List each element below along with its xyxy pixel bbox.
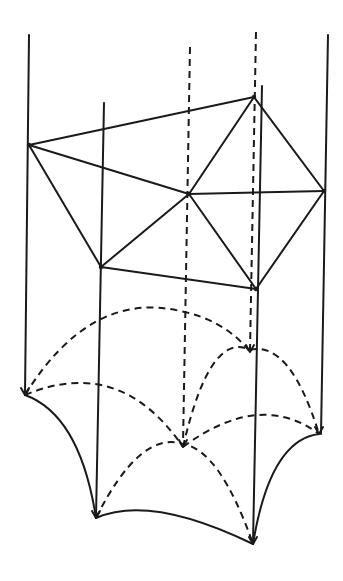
vertical-projection-lines [25, 32, 328, 544]
plan-vertex-dot [322, 189, 326, 193]
groin-rib-curve [25, 383, 183, 447]
dashed-projection-line [183, 47, 190, 445]
groin-rib-curve [96, 442, 253, 544]
plan-edge [101, 267, 256, 289]
plan-edge [29, 97, 254, 145]
vault-arches [25, 308, 319, 545]
plan-vertex-dot [27, 143, 31, 147]
plan-edge [256, 191, 324, 289]
plan-edge [189, 97, 254, 194]
plan-edge [189, 191, 324, 194]
solid-post-line [25, 35, 29, 395]
triangulated-plan [29, 97, 324, 289]
diagram-drawing [0, 0, 343, 581]
vault-projection-diagram [0, 0, 343, 581]
wall-arch-curve [25, 395, 96, 518]
plan-edge [101, 194, 189, 267]
solid-post-line [321, 35, 328, 434]
wall-arch-curve [96, 510, 253, 544]
plan-vertex-dot [99, 265, 103, 269]
groin-rib-curve [25, 308, 250, 396]
wall-arch-curve [253, 434, 319, 544]
plan-edge [189, 194, 256, 289]
plan-vertex-dot [187, 192, 191, 196]
dashed-projection-line [250, 32, 256, 350]
plan-edge [254, 97, 324, 191]
plan-vertex-dot [252, 95, 256, 99]
groin-rib-curve [183, 347, 319, 447]
plan-vertex-dot [254, 287, 258, 291]
vertex-markers [21, 95, 326, 544]
